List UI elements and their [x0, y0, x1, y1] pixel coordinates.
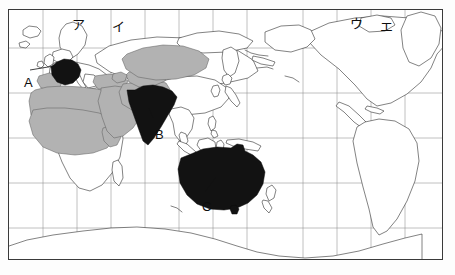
map-frame: A B C ア イ ウ エ	[8, 9, 443, 260]
map-label-b: B	[155, 128, 164, 141]
map-label-katakana-u: ウ	[350, 17, 363, 30]
map-label-katakana-a: ア	[72, 18, 85, 31]
world-map-figure: A B C ア イ ウ エ	[0, 0, 455, 275]
map-label-c: C	[202, 200, 211, 213]
map-label-katakana-i: イ	[112, 20, 125, 33]
map-label-a: A	[24, 76, 33, 89]
country-australia	[178, 144, 265, 210]
map-label-katakana-e: エ	[380, 20, 393, 33]
map-canvas	[9, 10, 442, 259]
